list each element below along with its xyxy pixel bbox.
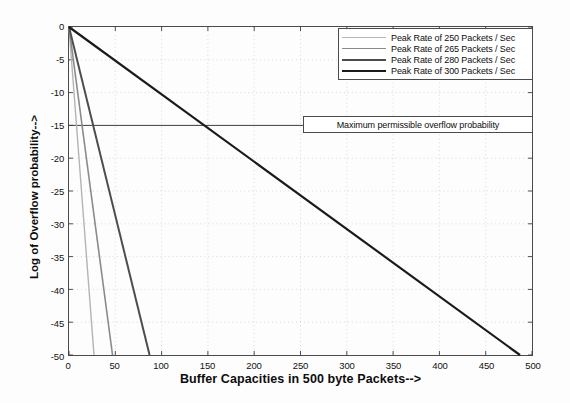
legend-item-label: Peak Rate of 300 Packets / Sec	[391, 66, 515, 76]
y-tick-label: -45	[28, 318, 64, 329]
y-tick-label: -5	[28, 54, 64, 65]
x-tick-label: 500	[525, 360, 540, 371]
x-tick-label: 0	[65, 360, 70, 371]
x-axis-title: Buffer Capacities in 500 byte Packets-->	[68, 372, 533, 386]
x-tick-label: 100	[153, 360, 168, 371]
x-tick-label: 50	[109, 360, 119, 371]
threshold-annotation-label: Maximum permissible overflow probability	[337, 120, 500, 130]
legend-item: Peak Rate of 280 Packets / Sec	[342, 54, 528, 65]
legend-item-label: Peak Rate of 250 Packets / Sec	[391, 33, 515, 43]
chart-figure: 0-5-10-15-20-25-30-35-40-45-50 050100150…	[0, 0, 570, 403]
legend-line-swatch	[342, 59, 386, 61]
x-tick-label: 350	[386, 360, 401, 371]
legend-item: Peak Rate of 250 Packets / Sec	[342, 32, 528, 43]
x-tick-label: 150	[200, 360, 215, 371]
x-tick-label: 450	[479, 360, 494, 371]
x-tick-label: 250	[293, 360, 308, 371]
legend-item: Peak Rate of 300 Packets / Sec	[342, 65, 528, 76]
legend-item: Peak Rate of 265 Packets / Sec	[342, 43, 528, 54]
legend-item-label: Peak Rate of 280 Packets / Sec	[391, 55, 515, 65]
legend-item-label: Peak Rate of 265 Packets / Sec	[391, 44, 515, 54]
y-axis-title: Log of Overflow probability-->	[28, 87, 40, 307]
y-tick-label: -50	[28, 351, 64, 362]
y-tick-label: 0	[28, 21, 64, 32]
threshold-annotation-box: Maximum permissible overflow probability	[303, 116, 533, 133]
legend-line-swatch	[342, 48, 386, 49]
legend-line-swatch	[342, 70, 386, 72]
legend-line-swatch	[342, 37, 386, 38]
x-tick-label: 400	[432, 360, 447, 371]
x-tick-label: 300	[339, 360, 354, 371]
chart-legend: Peak Rate of 250 Packets / SecPeak Rate …	[338, 28, 533, 80]
x-tick-label: 200	[246, 360, 261, 371]
